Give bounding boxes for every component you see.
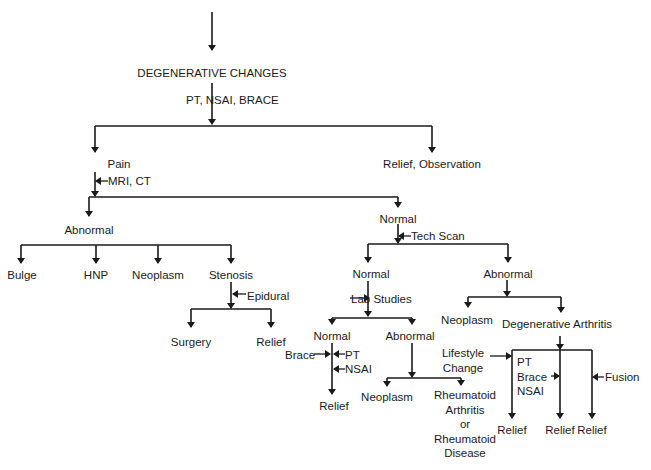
- node-degenerative-arthritis: Degenerative Arthritis: [502, 318, 612, 331]
- annotation-tech-scan: Tech Scan: [411, 230, 465, 243]
- node-relief-observation: Relief, Observation: [383, 158, 481, 171]
- annotation-pt-nsai-brace: PT, NSAI, BRACE: [186, 94, 279, 107]
- node-normal-2: Normal: [352, 268, 389, 281]
- node-hnp: HNP: [84, 269, 108, 282]
- annotation-epidural: Epidural: [247, 290, 289, 303]
- annotation-nsai-right: NSAI: [345, 363, 372, 376]
- node-abnormal-3: Abnormal: [385, 330, 434, 343]
- node-relief-3: Relief: [497, 424, 526, 437]
- annotation-lifestyle-change: Lifestyle Change: [442, 346, 484, 375]
- annotation-fusion: Fusion: [605, 371, 640, 384]
- node-bulge: Bulge: [7, 269, 36, 282]
- node-neoplasm-1: Neoplasm: [132, 269, 184, 282]
- annotation-lab-studies: Lab Studies: [351, 293, 412, 306]
- annotation-pt-brace-nsai: PT Brace NSAI: [517, 355, 547, 399]
- node-relief-4: Relief: [545, 424, 574, 437]
- node-abnormal-1: Abnormal: [64, 224, 113, 237]
- flowchart-canvas: DEGENERATIVE CHANGESPainRelief, Observat…: [0, 0, 651, 470]
- annotation-brace-left: Brace: [285, 349, 315, 362]
- node-relief-1: Relief: [256, 336, 285, 349]
- node-relief-2: Relief: [319, 400, 348, 413]
- node-rheumatoid: Rheumatoid Arthritis or Rheumatoid Disea…: [434, 388, 496, 461]
- node-relief-5: Relief: [577, 424, 606, 437]
- node-neoplasm-3: Neoplasm: [361, 391, 413, 404]
- annotation-pt-right: PT: [345, 349, 360, 362]
- node-normal-3: Normal: [313, 330, 350, 343]
- annotation-mri-ct: MRI, CT: [108, 175, 151, 188]
- node-pain: Pain: [107, 158, 130, 171]
- node-degenerative-changes: DEGENERATIVE CHANGES: [137, 67, 286, 80]
- node-neoplasm-2: Neoplasm: [441, 314, 493, 327]
- node-abnormal-2: Abnormal: [483, 268, 532, 281]
- node-surgery: Surgery: [171, 336, 211, 349]
- node-stenosis: Stenosis: [209, 269, 253, 282]
- node-normal-1: Normal: [379, 213, 416, 226]
